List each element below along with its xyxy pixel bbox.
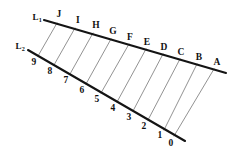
connector-j-to-9 <box>38 23 57 56</box>
point-label-a: A <box>214 58 221 68</box>
point-label-2: 2 <box>142 122 147 132</box>
line-label-l2-subscript: 2 <box>22 44 25 51</box>
point-label-j: J <box>57 10 62 20</box>
point-label-d: D <box>161 43 168 53</box>
point-label-i: I <box>76 16 80 26</box>
line-label-l2: L2 <box>15 42 24 51</box>
connector-c-to-2 <box>148 59 180 120</box>
point-label-6: 6 <box>80 86 85 96</box>
line-label-l1-subscript: 1 <box>39 15 42 22</box>
point-label-b: B <box>196 53 202 63</box>
connector-f-to-5 <box>101 44 129 93</box>
point-label-0: 0 <box>169 139 174 149</box>
connector-g-to-6 <box>86 39 111 84</box>
point-label-3: 3 <box>127 113 132 123</box>
diagram-svg <box>0 0 240 162</box>
connector-a-to-0 <box>174 69 214 136</box>
line-label-l1: L1 <box>32 13 41 22</box>
point-label-1: 1 <box>158 131 163 141</box>
connector-d-to-3 <box>133 54 163 111</box>
point-label-7: 7 <box>64 76 69 86</box>
connector-h-to-7 <box>70 33 93 74</box>
diagram-canvas: JIHGFEDCBA9876543210L1L2 <box>0 0 240 162</box>
point-label-e: E <box>144 38 150 48</box>
point-label-g: G <box>109 27 117 37</box>
line-l1 <box>44 20 226 73</box>
connector-i-to-8 <box>54 28 75 65</box>
line-l2 <box>28 50 185 141</box>
point-label-h: H <box>92 21 100 31</box>
point-label-5: 5 <box>95 95 100 105</box>
point-label-c: C <box>178 48 185 58</box>
connector-b-to-1 <box>164 64 197 130</box>
point-label-8: 8 <box>48 67 53 77</box>
point-label-f: F <box>127 33 133 43</box>
point-label-4: 4 <box>111 104 116 114</box>
point-label-9: 9 <box>32 58 37 68</box>
